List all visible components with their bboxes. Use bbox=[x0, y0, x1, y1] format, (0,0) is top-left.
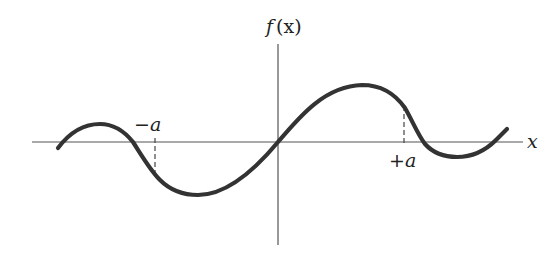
x-axis-label: x bbox=[527, 130, 538, 152]
function-curve bbox=[58, 85, 507, 195]
marker-label-plus-a: +a bbox=[389, 149, 416, 171]
y-axis-label: f(x) bbox=[264, 15, 302, 37]
marker-label-minus-a: −a bbox=[134, 113, 161, 135]
function-diagram: f(x) x −a +a bbox=[0, 0, 558, 255]
